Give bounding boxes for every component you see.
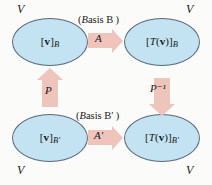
caption-basis-bottom: (Basis B′ ) (76, 110, 119, 121)
space-marker-bottom-left: V (17, 163, 24, 178)
arrow-label-a-prime: A′ (94, 129, 103, 141)
arrow-label-a: A (95, 32, 102, 44)
node-top-right-label: [T(v)]B (146, 35, 178, 49)
node-bottom-right-label: [T(v)]B′ (145, 131, 179, 145)
node-top-right: [T(v)]B (124, 18, 200, 66)
space-marker-top-right: V (186, 2, 193, 17)
node-top-left: [v]B (12, 18, 88, 66)
node-bottom-left-label: [v]B′ (40, 131, 60, 145)
arrow-label-p-inverse: P⁻¹ (150, 82, 166, 95)
space-marker-bottom-right: V (186, 163, 193, 178)
arrow-label-p: P (45, 84, 52, 96)
space-marker-top-left: V (17, 2, 24, 17)
caption-basis-top: (Basis B ) (78, 14, 119, 25)
change-of-basis-diagram: V V V V [v]B [T(v)]B [v]B′ [T(v)]B′ (Bas… (0, 0, 212, 185)
node-bottom-right: [T(v)]B′ (124, 114, 200, 162)
node-top-left-label: [v]B (41, 35, 59, 49)
node-bottom-left: [v]B′ (12, 114, 88, 162)
